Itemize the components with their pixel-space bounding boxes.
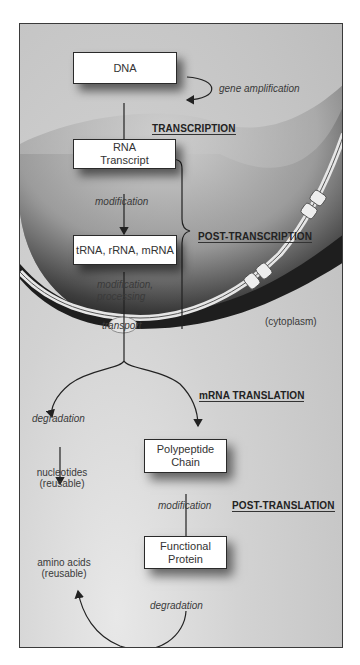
label-degradation-protein: degradation [150, 600, 203, 611]
node-trna-label: tRNA, rRNA, mRNA [76, 244, 174, 257]
label-modification-processing-1: modification, [97, 279, 153, 290]
node-polypeptide-chain: Polypeptide Chain [144, 439, 227, 473]
amino-acids-line2: (reusable) [34, 568, 94, 579]
nucleotides-line2: (reusable) [33, 478, 91, 489]
stage-post-translation: POST-TRANSLATION [232, 500, 335, 512]
label-nucleotides: nucleotides (reusable) [33, 467, 91, 489]
node-protein-line1: Functional [160, 540, 211, 553]
nucleotides-line1: nucleotides [33, 467, 91, 478]
label-modification-2: modification [158, 500, 211, 511]
label-modification-processing-2: processing [97, 291, 145, 302]
node-rna-line2: Transcript [100, 154, 149, 167]
label-amino-acids: amino acids (reusable) [34, 557, 94, 579]
node-polypeptide-line1: Polypeptide [157, 443, 215, 456]
node-protein-line2: Protein [168, 553, 203, 566]
label-gene-amplification: gene amplification [219, 83, 300, 94]
stage-mrna-translation: mRNA TRANSLATION [199, 390, 304, 402]
label-degradation-rna: degradation [32, 413, 85, 424]
label-modification-1: modification [95, 196, 148, 207]
node-dna-label: DNA [113, 62, 136, 75]
node-dna: DNA [73, 52, 177, 84]
label-transport: transport [102, 320, 141, 331]
stage-transcription: TRANSCRIPTION [152, 123, 236, 135]
node-functional-protein: Functional Protein [144, 536, 227, 569]
node-rna-line1: RNA [113, 141, 136, 154]
diagram-frame: DNA gene amplification TRANSCRIPTION RNA… [19, 23, 343, 648]
amino-acids-line1: amino acids [34, 557, 94, 568]
node-trna-rrna-mrna: tRNA, rRNA, mRNA [73, 235, 177, 265]
node-polypeptide-line2: Chain [171, 456, 200, 469]
node-rna-transcript: RNA Transcript [73, 139, 176, 169]
label-cytoplasm: (cytoplasm) [265, 316, 317, 327]
stage-post-transcription: POST-TRANSCRIPTION [198, 231, 312, 243]
